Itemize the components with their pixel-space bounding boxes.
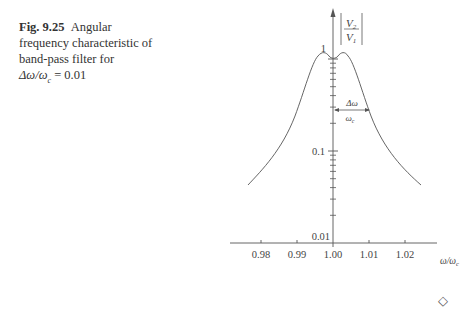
x-tick-label: 0.98 [252,249,270,260]
x-tick-label: 1.02 [396,249,414,260]
svg-text:Δω: Δω [345,98,358,108]
x-tick-label: 1.01 [360,249,378,260]
svg-text:V1: V1 [346,31,356,45]
x-tick-label: 1.00 [324,249,342,260]
chart: 0.98 0.99 1.00 1.01 1.02 ω/ωc 1 0.1 0.01… [0,0,473,321]
y-tick-label: 0.1 [312,146,325,157]
arrow-left-icon [334,108,339,112]
y-tick-label: 0.01 [312,231,330,242]
y-axis-arrow-icon [331,8,336,17]
y-axis-label: V2 V1 [341,13,362,45]
svg-text:ωc: ωc [345,113,354,124]
bandwidth-annotation: Δω ωc [334,98,370,124]
end-of-example-diamond-icon: ◇ [438,293,448,308]
x-tick-label: 0.99 [288,249,306,260]
x-axis-label: ω/ωc [440,256,459,267]
